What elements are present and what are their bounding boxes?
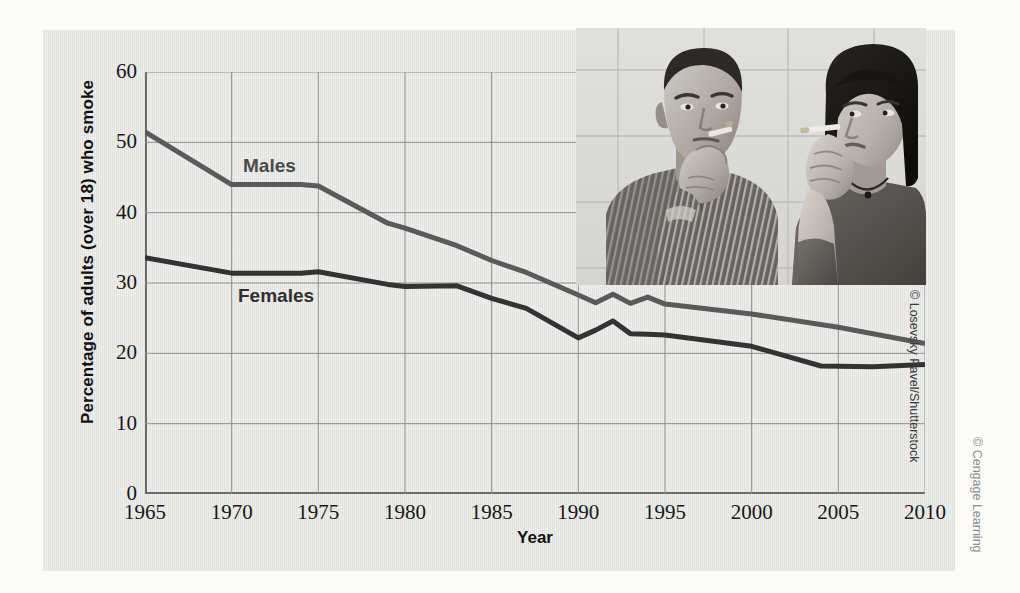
y-axis-title: Percentage of adults (over 18) who smoke	[78, 62, 98, 442]
x-tick-label: 1980	[384, 500, 426, 525]
x-tick-label: 1995	[644, 500, 686, 525]
x-tick-label: 1965	[124, 500, 166, 525]
y-tick-label: 60	[97, 61, 137, 82]
x-tick-label: 2005	[817, 500, 859, 525]
photo-smokers	[576, 28, 926, 285]
publisher-credit: © Cengage Learning	[970, 437, 984, 553]
x-tick-label: 1975	[297, 500, 339, 525]
photo-credit: © Losevsky Pavel/Shutterstock	[907, 290, 921, 462]
series-label-males: Males	[243, 155, 296, 177]
y-tick-label: 10	[97, 413, 137, 434]
x-tick-label: 2000	[731, 500, 773, 525]
series-label-females: Females	[238, 285, 314, 307]
figure-root: 0102030405060 Percentage of adults (over…	[0, 0, 1020, 593]
x-axis-title: Year	[145, 528, 925, 548]
photo-illustration	[576, 28, 926, 285]
y-tick-label: 50	[97, 131, 137, 152]
y-tick-label: 20	[97, 342, 137, 363]
y-tick-label: 30	[97, 272, 137, 293]
y-tick-label: 40	[97, 202, 137, 223]
x-tick-label: 1985	[471, 500, 513, 525]
x-axis-tick-labels: 1965197019751980198519901995200020052010	[145, 500, 925, 528]
x-tick-label: 2010	[904, 500, 946, 525]
x-tick-label: 1990	[557, 500, 599, 525]
x-tick-label: 1970	[211, 500, 253, 525]
